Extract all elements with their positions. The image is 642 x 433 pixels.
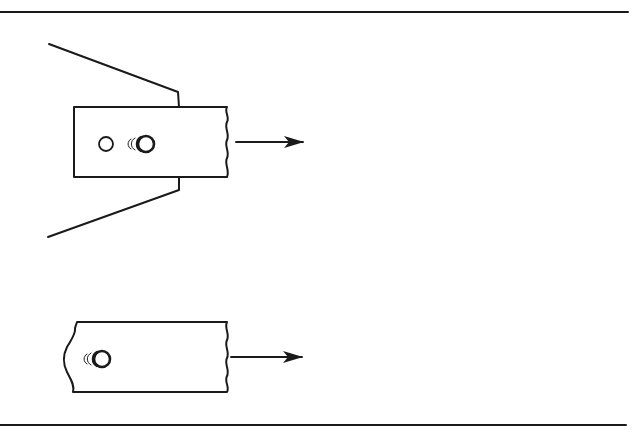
upper-plate: [74, 107, 228, 177]
upper-figure: [48, 44, 303, 237]
lower-plate: [64, 322, 228, 392]
wedge-bottom-jaw: [48, 177, 179, 237]
lower-figure: [64, 322, 302, 392]
diagram-canvas: [0, 0, 642, 433]
wedge-top-jaw: [49, 44, 179, 107]
